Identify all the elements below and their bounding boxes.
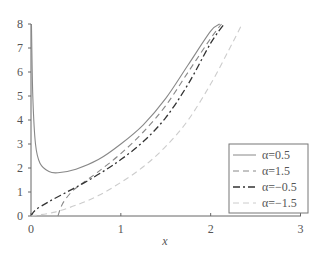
legend: α=0.5 α=1.5 α=−0.5 α=−1.5 [229,144,308,213]
y-tick-label: 7 [17,41,23,55]
legend-item-alpha-0-5: α=0.5 [262,148,290,162]
x-tick-label: 2 [208,222,214,236]
y-tick-label: 3 [17,137,23,151]
y-tick-label: 8 [17,17,23,31]
plot-series [31,24,242,216]
series-line-1 [58,24,221,216]
line-chart: 012345678 0123 x α=0.5 α=1.5 α=−0.5 α=−1… [0,0,315,255]
y-tick-label: 1 [17,185,23,199]
y-tick-label: 6 [17,65,23,79]
series-line-2 [31,24,224,216]
y-tick-label: 0 [17,209,23,223]
y-tick-label: 5 [17,89,23,103]
series-line-0 [31,24,219,173]
x-tick-label: 3 [298,222,304,236]
x-tick-label: 1 [118,222,124,236]
series-line-3 [31,24,242,216]
x-axis-label: x [161,234,168,248]
x-tick-label: 0 [28,222,34,236]
y-tick-label: 4 [17,113,23,127]
legend-item-alpha-1-5: α=1.5 [262,164,290,178]
y-tick-label: 2 [17,161,23,175]
y-ticks: 012345678 [17,17,31,223]
legend-item-alpha-neg-1-5: α=−1.5 [262,196,297,210]
legend-item-alpha-neg-0-5: α=−0.5 [262,180,297,194]
